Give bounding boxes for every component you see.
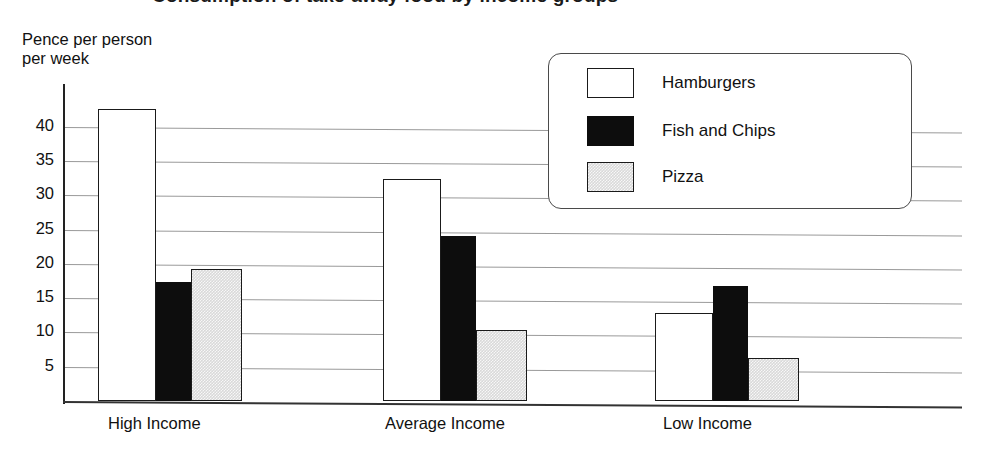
bar-hamburgers-group-3 <box>655 313 713 401</box>
y-tick-label: 5 <box>14 356 54 375</box>
bar-fish-and-chips-group-2 <box>441 236 476 401</box>
bar-fish-and-chips-group-3 <box>713 286 748 401</box>
x-tick-label-2: Average Income <box>385 414 505 433</box>
legend-item-hamburgers[interactable]: Hamburgers <box>587 68 756 98</box>
y-tick-label: 40 <box>14 116 54 135</box>
y-tick-label: 25 <box>14 219 54 238</box>
legend-swatch-pizza <box>587 162 634 192</box>
bar-hamburgers-group-1 <box>98 109 156 401</box>
gridline <box>63 230 962 236</box>
bar-fish-and-chips-group-1 <box>156 282 191 401</box>
x-tick-label-3: Low Income <box>663 414 752 433</box>
legend-item-fish-and-chips[interactable]: Fish and Chips <box>587 116 775 146</box>
x-tick-label-1: High Income <box>108 414 201 433</box>
bar-pizza-group-3 <box>748 358 799 401</box>
legend-label-pizza: Pizza <box>662 167 704 187</box>
bar-pizza-group-2 <box>476 330 527 401</box>
legend-swatch-hamburgers <box>587 68 634 98</box>
bar-pizza-group-1 <box>191 269 242 401</box>
y-tick-label: 30 <box>14 184 54 203</box>
y-tick-label: 20 <box>14 253 54 272</box>
legend-label-fish-and-chips: Fish and Chips <box>662 121 775 141</box>
bar-hamburgers-group-2 <box>383 179 441 401</box>
y-tick-label: 35 <box>14 150 54 169</box>
y-tick-label: 10 <box>14 321 54 340</box>
x-axis-line <box>63 401 962 408</box>
y-axis-line <box>63 84 65 404</box>
y-tick-label: 15 <box>14 287 54 306</box>
legend-item-pizza[interactable]: Pizza <box>587 162 704 192</box>
legend-label-hamburgers: Hamburgers <box>662 73 756 93</box>
chart-legend: Hamburgers Fish and Chips Pizza <box>548 53 912 209</box>
legend-swatch-fish-and-chips <box>587 116 634 146</box>
